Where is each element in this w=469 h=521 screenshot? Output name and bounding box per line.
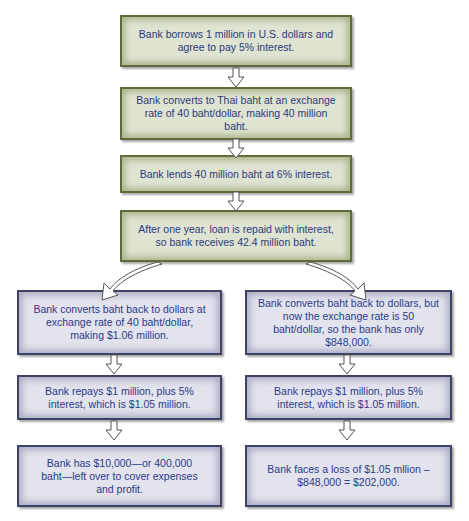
down-arrow-icon <box>228 139 244 158</box>
down-arrow-icon <box>339 355 355 374</box>
down-arrow-icon <box>228 192 244 211</box>
down-arrow-icon <box>339 421 355 440</box>
curved-arrow-left-icon <box>102 262 162 300</box>
down-arrow-icon <box>106 355 122 374</box>
down-arrow-icon <box>106 421 122 440</box>
curved-arrow-right-icon <box>306 262 366 300</box>
down-arrow-icon <box>228 68 244 87</box>
arrows-layer <box>0 0 469 521</box>
